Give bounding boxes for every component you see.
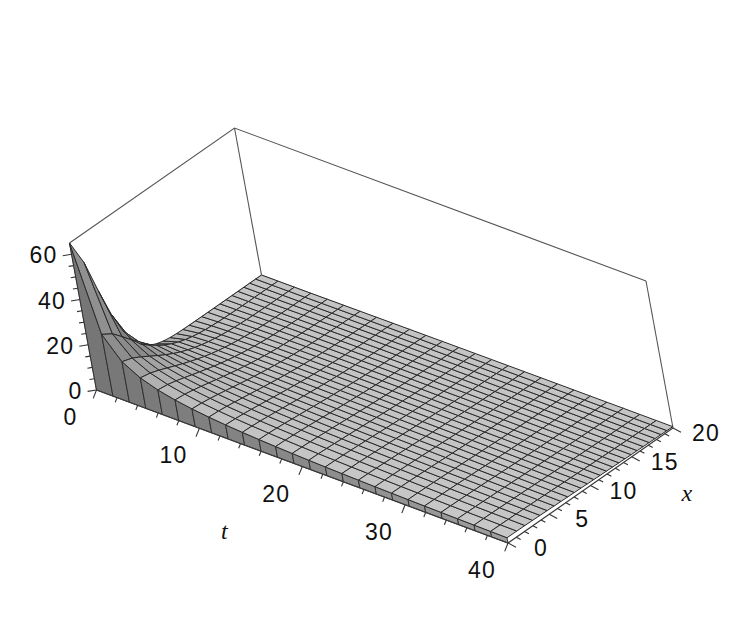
x-axis-title: x	[681, 480, 693, 506]
z-tick-60: 60	[30, 242, 58, 268]
t-axis-title: t	[221, 518, 229, 544]
z-tick-0: 0	[69, 378, 83, 404]
t-tick-10: 10	[159, 442, 187, 468]
surface-plot-figure: 0 10 20 30 40 0 5 10 15 20 0 20 40 60 t …	[0, 0, 730, 617]
x-tick-20: 20	[692, 420, 720, 446]
t-tick-30: 30	[365, 519, 393, 545]
x-tick-10: 10	[610, 478, 638, 504]
x-tick-0: 0	[534, 535, 548, 561]
t-tick-40: 40	[468, 557, 496, 583]
z-tick-40: 40	[38, 288, 66, 314]
surface-mesh	[70, 243, 673, 543]
plot-canvas: 0 10 20 30 40 0 5 10 15 20 0 20 40 60 t …	[0, 0, 730, 617]
x-tick-15: 15	[651, 449, 679, 475]
z-tick-20: 20	[46, 333, 74, 359]
t-tick-20: 20	[262, 481, 290, 507]
x-tick-5: 5	[575, 506, 589, 532]
t-tick-0: 0	[64, 404, 78, 430]
